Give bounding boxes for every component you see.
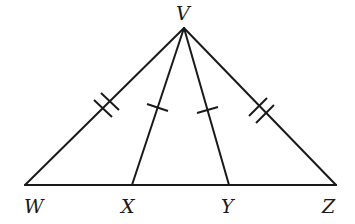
segments (25, 28, 336, 185)
label-v: V (176, 2, 192, 24)
segment-vw (25, 28, 184, 185)
tick-marks (94, 93, 274, 123)
label-x: X (119, 195, 136, 217)
label-y: Y (221, 195, 236, 217)
label-w: W (24, 195, 45, 217)
triangle-diagram: V W X Y Z (0, 0, 355, 224)
double-tick-vz (249, 98, 274, 123)
segment-vx (132, 28, 184, 185)
label-z: Z (321, 195, 336, 217)
